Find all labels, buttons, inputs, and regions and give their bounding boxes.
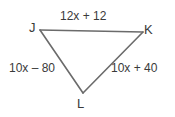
side-length-label-jk: 12x + 12 [60,10,106,22]
vertex-label-j: J [29,21,36,34]
vertex-label-k: K [144,23,153,36]
vertex-label-l: L [77,97,84,110]
side-length-label-kl: 10x + 40 [111,62,157,74]
side-length-label-jl: 10x – 80 [9,62,55,74]
triangle-figure: J K L 12x + 12 10x – 80 10x + 40 [0,0,175,117]
side-jk-line [40,30,143,32]
